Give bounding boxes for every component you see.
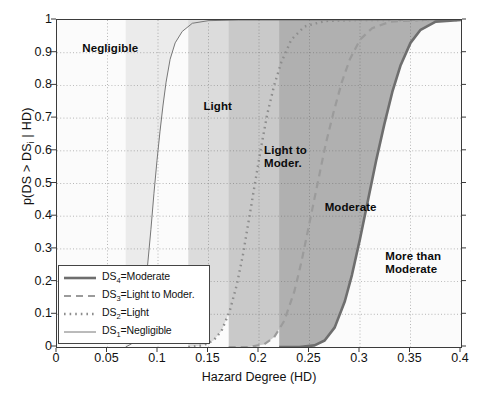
legend-line-sample bbox=[63, 326, 97, 338]
legend-item[interactable]: DS2=Light bbox=[63, 305, 205, 323]
x-tick-label: 0.35 bbox=[397, 352, 421, 365]
figure-container: p(DS > DSi | HD) 00.10.20.30.40.50.60.70… bbox=[0, 0, 482, 407]
y-tick-label: 0.5 bbox=[18, 177, 52, 190]
y-tick-label: 0.2 bbox=[18, 275, 52, 288]
region-label-more-than-moderate: More than Moderate bbox=[385, 250, 441, 276]
figure-caption bbox=[8, 390, 408, 404]
y-tick-label: 0.8 bbox=[18, 78, 52, 91]
x-tick-label: 0 bbox=[53, 352, 60, 365]
legend-line-sample bbox=[63, 308, 97, 320]
legend-item[interactable]: DS1=Negligible bbox=[63, 323, 205, 341]
legend-line-sample bbox=[63, 290, 97, 302]
x-tick-label: 0.2 bbox=[249, 352, 266, 365]
x-axis-ticks: 00.050.10.150.20.250.30.350.4 bbox=[0, 352, 482, 370]
legend-item[interactable]: DS4=Moderate bbox=[63, 269, 205, 287]
legend-label-prefix: DS bbox=[102, 324, 116, 336]
legend-label-suffix: =Light to Moder. bbox=[120, 288, 194, 300]
y-tick-label: 0.1 bbox=[18, 307, 52, 320]
y-axis-ticks: 00.10.20.30.40.50.60.70.80.91 bbox=[16, 0, 52, 407]
legend-label-prefix: DS bbox=[102, 306, 116, 318]
legend-line-sample bbox=[63, 272, 97, 284]
x-axis-label: Hazard Degree (HD) bbox=[56, 370, 462, 384]
y-tick-label: 0 bbox=[18, 340, 52, 353]
y-tick-label: 0.4 bbox=[18, 209, 52, 222]
legend-label-prefix: DS bbox=[102, 270, 116, 282]
y-tick-label: 1 bbox=[18, 13, 52, 26]
y-tick-label: 0.9 bbox=[18, 46, 52, 59]
region-label-moderate: Moderate bbox=[325, 201, 377, 214]
region-label-light: Light bbox=[203, 100, 232, 113]
legend-label: DS1=Negligible bbox=[102, 324, 172, 339]
x-tick-label: 0.1 bbox=[148, 352, 165, 365]
legend-label: DS2=Light bbox=[102, 306, 149, 321]
x-tick-label: 0.3 bbox=[350, 352, 367, 365]
region-label-light-to-moder: Light to Moder. bbox=[264, 144, 307, 170]
legend-label-suffix: =Light bbox=[120, 306, 148, 318]
legend-label: DS3=Light to Moder. bbox=[102, 288, 194, 303]
legend: DS4=ModerateDS3=Light to Moder.DS2=Light… bbox=[58, 265, 210, 344]
x-tick-label: 0.25 bbox=[296, 352, 320, 365]
region-label-negligible: Negligible bbox=[82, 42, 138, 55]
x-tick-label: 0.4 bbox=[451, 352, 468, 365]
y-tick-label: 0.7 bbox=[18, 111, 52, 124]
x-tick-label: 0.15 bbox=[195, 352, 219, 365]
x-tick-label: 0.05 bbox=[94, 352, 118, 365]
y-tick-label: 0.6 bbox=[18, 144, 52, 157]
legend-label-suffix: =Moderate bbox=[120, 270, 170, 282]
legend-label-prefix: DS bbox=[102, 288, 116, 300]
legend-item[interactable]: DS3=Light to Moder. bbox=[63, 287, 205, 305]
legend-label: DS4=Moderate bbox=[102, 270, 170, 285]
y-tick-label: 0.3 bbox=[18, 242, 52, 255]
legend-label-suffix: =Negligible bbox=[120, 324, 171, 336]
